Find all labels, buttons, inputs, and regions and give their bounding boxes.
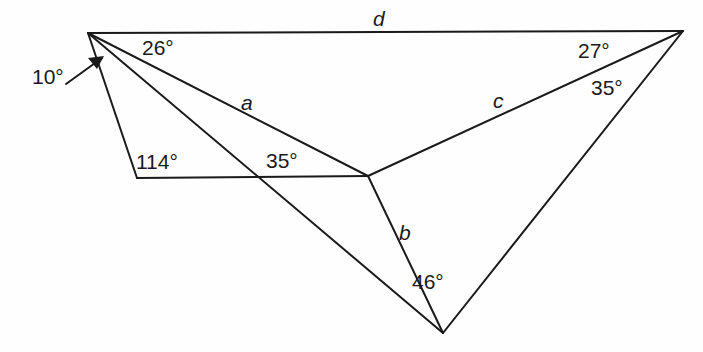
edge-left-center xyxy=(137,176,368,178)
angle-label-35-center: 35° xyxy=(266,150,298,171)
edge-right-bottom xyxy=(443,31,683,333)
side-label-d: d xyxy=(373,8,385,29)
edge-apex-bottom xyxy=(88,33,443,333)
edge-b xyxy=(368,176,443,333)
angle-label-27: 27° xyxy=(578,40,610,61)
edge-c xyxy=(368,31,683,176)
angle-label-114: 114° xyxy=(136,151,178,172)
angle-label-46: 46° xyxy=(412,271,444,292)
angle-label-26: 26° xyxy=(142,37,174,58)
side-label-c: c xyxy=(493,90,504,111)
side-label-a: a xyxy=(241,92,253,113)
geometry-diagram: 10° 26° 114° 35° 27° 35° 46° d a c b xyxy=(0,0,703,352)
side-label-b: b xyxy=(399,222,411,243)
angle-label-35-right: 35° xyxy=(591,77,623,98)
angle-label-10: 10° xyxy=(32,66,64,87)
edge-d-top xyxy=(88,31,683,33)
